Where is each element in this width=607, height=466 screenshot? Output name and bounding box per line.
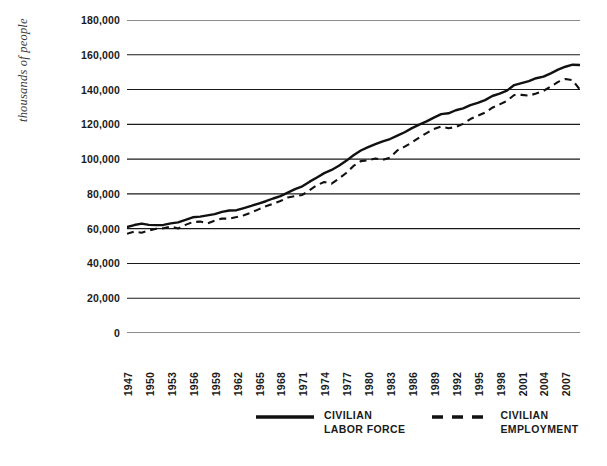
x-axis-tick-label: 2001 — [517, 372, 529, 396]
y-axis-tick-label: 40,000 — [50, 257, 120, 269]
x-axis-tick-label: 1983 — [385, 372, 397, 396]
x-axis-tick-label: 1962 — [232, 372, 244, 396]
y-axis-tick-label: 140,000 — [50, 84, 120, 96]
y-axis-tick-label: 120,000 — [50, 118, 120, 130]
legend-item-civilian-employment: CIVILIAN EMPLOYMENT — [431, 408, 578, 436]
x-axis-tick-labels: 1947195019531956195919621965196819711974… — [127, 336, 580, 396]
legend-swatch-solid-line-icon — [255, 410, 315, 424]
x-axis-tick-label: 1953 — [166, 372, 178, 396]
legend-label-civilian-labor-force: CIVILIAN LABOR FORCE — [324, 408, 405, 436]
y-axis-tick-label: 160,000 — [50, 49, 120, 61]
x-axis-tick-label: 1974 — [319, 372, 331, 396]
x-axis-tick-label: 1947 — [122, 372, 134, 396]
x-axis-tick-label: 2007 — [560, 372, 572, 396]
y-axis-tick-label: 0 — [50, 327, 120, 339]
y-axis-title: thousands of people — [16, 0, 31, 122]
x-axis-tick-label: 1989 — [429, 372, 441, 396]
x-axis-tick-label: 1971 — [297, 372, 309, 396]
x-axis-tick-label: 1950 — [144, 372, 156, 396]
plot-area — [127, 20, 580, 333]
y-axis-tick-label: 180,000 — [50, 14, 120, 26]
x-axis-tick-label: 1956 — [188, 372, 200, 396]
x-axis-tick-label: 1959 — [210, 372, 222, 396]
x-axis-tick-label: 1968 — [275, 372, 287, 396]
legend-label-civilian-employment: CIVILIAN EMPLOYMENT — [500, 408, 578, 436]
gridlines — [127, 20, 580, 333]
y-axis-tick-label: 80,000 — [50, 188, 120, 200]
y-axis-tick-labels: 180,000160,000140,000120,000100,00080,00… — [48, 0, 120, 466]
chart-legend: CIVILIAN LABOR FORCE CIVILIAN EMPLOYMENT — [255, 408, 585, 454]
chart-container: thousands of people 180,000160,000140,00… — [0, 0, 607, 466]
y-axis-tick-label: 20,000 — [50, 292, 120, 304]
x-axis-tick-label: 1995 — [473, 372, 485, 396]
y-axis-tick-label: 100,000 — [50, 153, 120, 165]
x-axis-tick-label: 1977 — [341, 372, 353, 396]
legend-swatch-dashed-line-icon — [431, 410, 491, 424]
legend-item-civilian-labor-force: CIVILIAN LABOR FORCE — [255, 408, 405, 436]
y-axis-tick-label: 60,000 — [50, 223, 120, 235]
x-axis-tick-label: 1965 — [254, 372, 266, 396]
x-axis-tick-label: 2004 — [538, 372, 550, 396]
x-axis-tick-label: 1992 — [451, 372, 463, 396]
x-axis-tick-label: 1986 — [407, 372, 419, 396]
x-axis-tick-label: 1980 — [363, 372, 375, 396]
x-axis-tick-label: 1998 — [495, 372, 507, 396]
